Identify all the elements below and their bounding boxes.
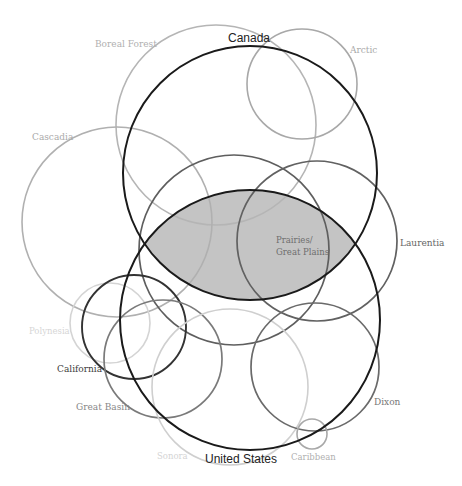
united-states-label: United States — [205, 452, 277, 466]
venn-diagram: Boreal ForestArcticCascadiaLaurentiaPoly… — [0, 0, 462, 486]
cascadia-label: Cascadia — [32, 132, 74, 142]
prairies-label-line1: Prairies/ — [276, 235, 313, 245]
caribbean-label: Caribbean — [291, 452, 336, 462]
great-basin-label: Great Basin — [76, 402, 130, 412]
dixon-label: Dixon — [374, 397, 401, 407]
prairies-label-line2: Great Plains — [276, 247, 329, 257]
polynesia-label: Polynesia — [29, 326, 70, 336]
canada-label: Canada — [228, 31, 270, 45]
boreal-forest-label: Boreal Forest — [95, 39, 157, 49]
arctic-label: Arctic — [349, 45, 377, 55]
sonora-label: Sonora — [157, 451, 188, 461]
california-label: California — [57, 364, 103, 374]
laurentia-label: Laurentia — [400, 238, 445, 248]
